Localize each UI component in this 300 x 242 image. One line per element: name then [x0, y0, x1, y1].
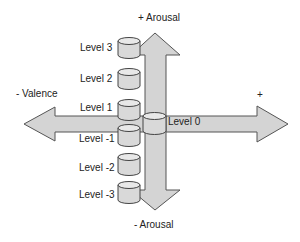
cylinder-level-minus-2 [118, 154, 140, 176]
cylinder-level-1 [118, 100, 140, 121]
level-minus-3-label: Level -3 [79, 189, 115, 201]
cylinder-level-minus-1 [118, 125, 140, 147]
level-minus-2-label: Level -2 [79, 162, 115, 174]
valence-positive-label: + [257, 89, 263, 101]
cylinder-level-3 [118, 38, 140, 59]
level-3-label: Level 3 [80, 42, 112, 54]
level-2-label: Level 2 [80, 73, 112, 85]
diagram-canvas [0, 0, 300, 242]
cylinder-level-minus-3 [118, 182, 140, 204]
arousal-negative-label: - Arousal [134, 219, 173, 231]
cylinder-level-0 [143, 113, 166, 135]
arousal-positive-label: + Arousal [138, 12, 180, 24]
valence-negative-label: - Valence [16, 88, 58, 100]
level-1-label: Level 1 [80, 102, 112, 114]
level-0-label: Level 0 [168, 116, 200, 128]
level-minus-1-label: Level -1 [79, 133, 115, 145]
cylinder-level-2 [118, 69, 140, 90]
